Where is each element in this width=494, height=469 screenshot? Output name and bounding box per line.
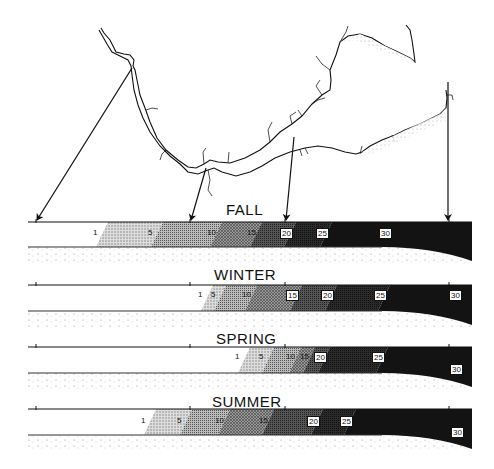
isohaline-label: 5 xyxy=(258,352,264,361)
arrow-2 xyxy=(191,168,206,220)
section-winter xyxy=(28,282,472,327)
isohaline-label: 10 xyxy=(241,290,252,299)
estuary-salinity-figure: FALL WINTER SPRING SUMMER 15101520253015… xyxy=(0,0,494,469)
section-spring xyxy=(28,344,472,389)
isohaline-label: 1 xyxy=(140,416,146,425)
section-title-winter: WINTER xyxy=(214,266,276,283)
section-title-spring: SPRING xyxy=(216,330,277,347)
isohaline-label: 25 xyxy=(316,228,329,239)
estuary-map xyxy=(99,25,453,196)
isohaline-label: 1 xyxy=(197,290,203,299)
isohaline-label: 10 xyxy=(214,416,225,425)
section-summer xyxy=(28,406,472,451)
isohaline-label: 25 xyxy=(340,416,353,427)
isohaline-label: 10 xyxy=(285,352,296,361)
isohaline-label: 5 xyxy=(210,290,216,299)
isohaline-label: 15 xyxy=(258,416,269,425)
isohaline-label: 1 xyxy=(234,352,240,361)
isohaline-label: 15 xyxy=(246,228,257,237)
arrow-1 xyxy=(37,68,132,220)
isohaline-label: 30 xyxy=(379,228,392,239)
isohaline-label: 20 xyxy=(321,290,334,301)
isohaline-label: 5 xyxy=(176,416,182,425)
isohaline-label: 25 xyxy=(372,352,385,363)
arrow-3 xyxy=(286,137,294,220)
isohaline-label: 20 xyxy=(307,416,320,427)
isohaline-label: 15 xyxy=(299,352,310,361)
isohaline-label: 30 xyxy=(450,364,463,375)
isohaline-label: 20 xyxy=(314,352,327,363)
section-fall xyxy=(28,219,472,263)
isohaline-label: 15 xyxy=(286,290,299,301)
isohaline-label: 30 xyxy=(449,290,462,301)
isohaline-label: 25 xyxy=(374,290,387,301)
isohaline-label: 10 xyxy=(206,228,217,237)
isohaline-label: 20 xyxy=(280,228,293,239)
isohaline-label: 1 xyxy=(92,228,98,237)
isohaline-label: 30 xyxy=(451,427,464,438)
section-title-summer: SUMMER xyxy=(212,393,282,410)
isohaline-label: 5 xyxy=(147,228,153,237)
section-title-fall: FALL xyxy=(226,201,263,218)
